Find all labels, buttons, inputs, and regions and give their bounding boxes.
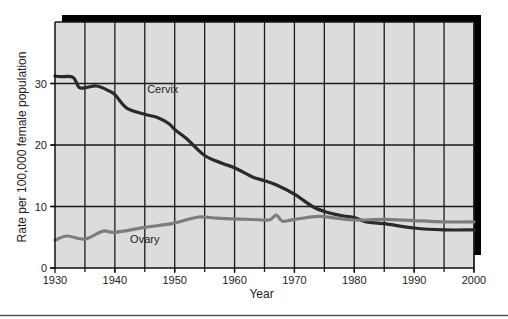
series-label-ovary: Ovary — [130, 233, 160, 245]
series-label-cervix: Cervix — [147, 83, 179, 95]
y-tick-label-20: 20 — [35, 139, 47, 151]
y-axis-title: Rate per 100,000 female population — [15, 52, 29, 243]
x-tick-label-1930: 1930 — [43, 274, 67, 286]
x-tick-label-1960: 1960 — [222, 274, 246, 286]
x-tick-label-1970: 1970 — [282, 274, 306, 286]
plot-frame — [55, 15, 481, 268]
y-tick-label-0: 0 — [41, 262, 47, 274]
x-tick-label-1940: 1940 — [103, 274, 127, 286]
x-tick-label-1990: 1990 — [402, 274, 426, 286]
y-tick-label-10: 10 — [35, 201, 47, 213]
line-chart: 193019401950196019701980199020000102030 … — [0, 0, 508, 319]
x-tick-label-1950: 1950 — [162, 274, 186, 286]
x-axis-title: Year — [249, 287, 273, 301]
y-tick-label-30: 30 — [35, 78, 47, 90]
x-tick-label-1980: 1980 — [342, 274, 366, 286]
x-tick-label-2000: 2000 — [462, 274, 486, 286]
